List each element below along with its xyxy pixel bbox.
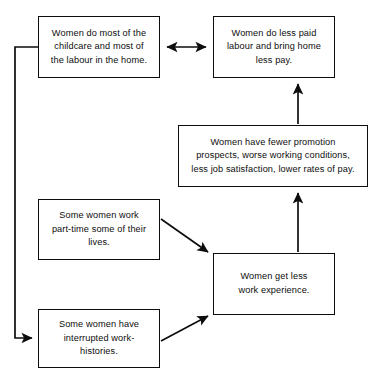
node-interrupted-label: Some women have interrupted work- histor… [52, 318, 146, 359]
connector-parttime-experience [161, 219, 208, 252]
node-part-time-work[interactable]: Some women work part-time some of their … [38, 199, 160, 260]
node-less-paid-labour[interactable]: Women do less paid labour and bring home… [213, 16, 335, 78]
node-experience-label: Women get less work experience. [231, 270, 316, 297]
diagram-canvas: Women do most of the childcare and most … [0, 0, 383, 386]
node-childcare-and-home-labour[interactable]: Women do most of the childcare and most … [38, 16, 160, 78]
connector-interrupted-experience [161, 316, 208, 341]
connector-childcare-interrupted [15, 47, 38, 338]
node-less-paid-label: Women do less paid labour and bring home… [220, 27, 328, 68]
node-promotion-label: Women have fewer promotion prospects, wo… [184, 136, 361, 177]
node-part-time-label: Some women work part-time some of their … [45, 209, 153, 250]
node-less-work-experience[interactable]: Women get less work experience. [213, 253, 335, 315]
node-interrupted-work-histories[interactable]: Some women have interrupted work- histor… [38, 309, 160, 368]
node-childcare-label: Women do most of the childcare and most … [44, 27, 154, 68]
node-fewer-promotion-prospects[interactable]: Women have fewer promotion prospects, wo… [178, 125, 368, 187]
